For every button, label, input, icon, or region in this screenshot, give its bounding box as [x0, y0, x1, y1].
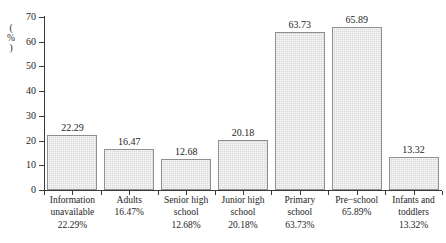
category-percent-label: 16.47% [101, 206, 158, 218]
bar-value-label: 65.89 [327, 14, 387, 25]
category-name-line: school [271, 206, 328, 218]
bar [104, 149, 154, 190]
bar [218, 140, 268, 190]
bar-value-label: 22.29 [42, 122, 102, 133]
bar-value-label: 12.68 [156, 146, 216, 157]
y-tick-label: 10 [14, 160, 36, 170]
category-name-line: toddlers [385, 206, 442, 218]
x-axis-category-label: Pre−school65.89% [328, 194, 385, 219]
category-percent-label: 63.73% [271, 219, 328, 231]
bar [389, 157, 439, 190]
category-percent-label: 65.89% [328, 206, 385, 218]
category-name-line: Pre−school [328, 194, 385, 206]
x-axis-category-label: Primaryschool63.73% [271, 194, 328, 231]
y-tick-label: 20 [14, 136, 36, 146]
x-axis-category-label: Adults16.47% [101, 194, 158, 219]
x-axis-category-label: Senior highschool12.68% [158, 194, 215, 231]
x-tick-mark [442, 191, 443, 195]
category-name-line: Primary [271, 194, 328, 206]
y-tick-label: 50 [14, 61, 36, 71]
x-axis-category-label: Junior highschool20.18% [215, 194, 272, 231]
category-percent-label: 22.29% [44, 219, 101, 231]
y-tick-label: 40 [14, 86, 36, 96]
category-name-line: Adults [101, 194, 158, 206]
category-name-line: unavailable [44, 206, 101, 218]
y-tick-label: 30 [14, 111, 36, 121]
bar [332, 27, 382, 190]
bar-value-label: 20.18 [213, 127, 273, 138]
category-name-line: school [158, 206, 215, 218]
category-percent-label: 20.18% [215, 219, 272, 231]
bar [275, 32, 325, 190]
bar [161, 159, 211, 190]
category-name-line: Infants and [385, 194, 442, 206]
bar-value-label: 16.47 [99, 136, 159, 147]
x-axis-category-label: Infants andtoddlers13.32% [385, 194, 442, 231]
category-name-line: Senior high [158, 194, 215, 206]
bar-value-label: 13.32 [384, 144, 444, 155]
category-percent-label: 13.32% [385, 219, 442, 231]
category-percent-label: 12.68% [158, 219, 215, 231]
y-tick-label: 60 [14, 37, 36, 47]
category-name-line: Information [44, 194, 101, 206]
y-tick-label: 70 [14, 12, 36, 22]
category-name-line: Junior high [215, 194, 272, 206]
category-name-line: school [215, 206, 272, 218]
bar-value-label: 63.73 [270, 19, 330, 30]
bar-chart: (%) 010203040506070 22.2916.4712.6820.18… [0, 0, 446, 243]
y-tick-label: 0 [14, 185, 36, 195]
x-axis-category-label: Informationunavailable22.29% [44, 194, 101, 231]
y-axis-line [44, 16, 45, 191]
bar [47, 135, 97, 190]
